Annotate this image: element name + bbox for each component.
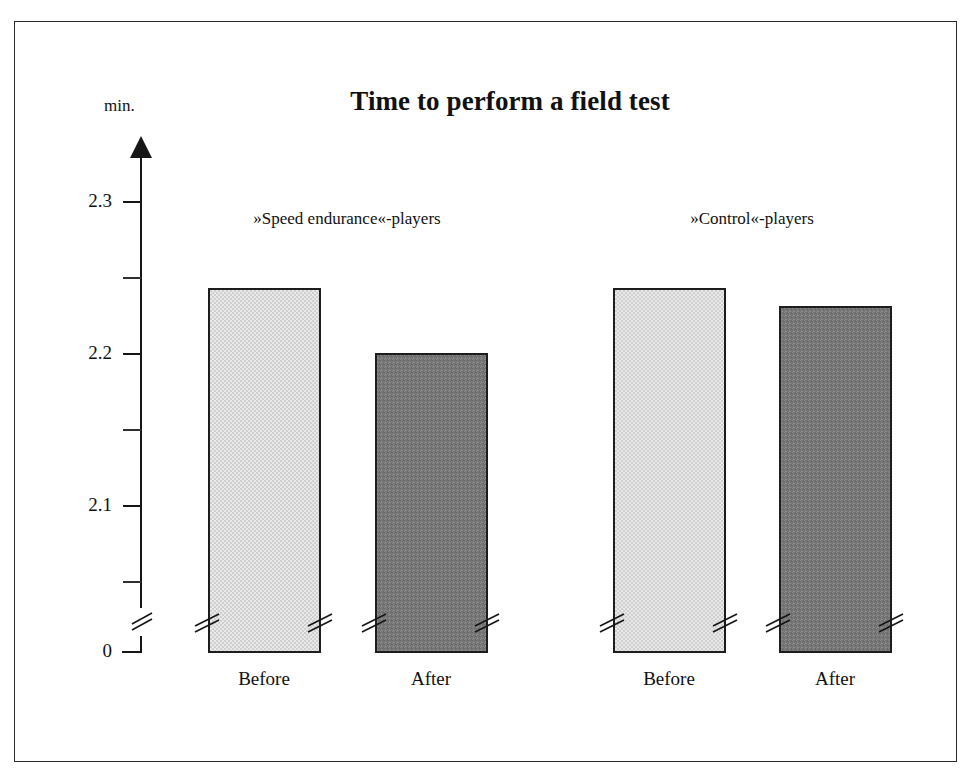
y-tick-minor-2-05 <box>123 581 141 583</box>
x-axis-baseline <box>122 651 142 653</box>
axis-break-icon <box>128 608 156 636</box>
x-label-speed-endurance-after: After <box>371 668 491 690</box>
y-tick-minor-2-25 <box>123 277 141 279</box>
x-label-control-before: Before <box>609 668 729 690</box>
y-tick-major-2-2 <box>123 353 141 355</box>
bar-control-after[interactable] <box>779 306 892 653</box>
y-tick-label-2-1: 2.1 <box>52 494 112 516</box>
bar-speed-endurance-after[interactable] <box>375 353 488 653</box>
group-label-control: »Control«-players <box>577 209 927 229</box>
y-tick-major-2-1 <box>123 505 141 507</box>
x-label-speed-endurance-before: Before <box>204 668 324 690</box>
y-tick-label-2-2: 2.2 <box>52 342 112 364</box>
group-label-speed-endurance: »Speed endurance«-players <box>172 209 522 229</box>
y-axis-unit-label: min. <box>104 96 135 116</box>
x-label-control-after: After <box>775 668 895 690</box>
bar-control-before[interactable] <box>613 288 726 653</box>
y-tick-label-0: 0 <box>52 640 112 662</box>
y-tick-minor-2-15 <box>123 429 141 431</box>
bar-speed-endurance-before[interactable] <box>208 288 321 653</box>
y-tick-label-2-3: 2.3 <box>52 190 112 212</box>
y-axis-line <box>140 152 142 653</box>
y-tick-major-2-3 <box>123 201 141 203</box>
chart-title: Time to perform a field test <box>290 86 730 117</box>
chart-plot-area: Time to perform a field test min. 2.3 2.… <box>0 0 972 781</box>
